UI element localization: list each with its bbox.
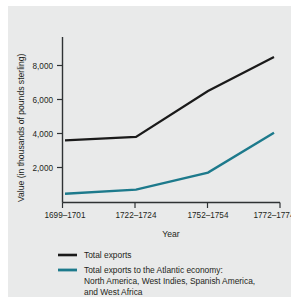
- legend-label-atlantic-line3: and West Africa: [84, 287, 143, 297]
- series-line-total-exports: [65, 57, 274, 140]
- chart-svg: Value (in thousands of pounds sterling) …: [8, 6, 291, 297]
- x-tick-label-1699-1701: 1699–1701: [45, 211, 86, 220]
- y-tick-label-6000: 6,000: [33, 96, 54, 105]
- y-tick-label-8000: 8,000: [33, 62, 54, 71]
- x-tick-label-1772-1774: 1772–1774: [254, 211, 291, 220]
- line-chart-figure: Value (in thousands of pounds sterling) …: [8, 6, 291, 297]
- legend-label-total-exports: Total exports: [84, 250, 131, 260]
- x-tick-label-1752-1754: 1752–1754: [188, 211, 229, 220]
- x-axis-title: Year: [162, 229, 180, 239]
- y-tick-label-4000: 4,000: [33, 130, 54, 139]
- x-axis-ticks: [63, 203, 281, 209]
- y-axis-title: Value (in thousands of pounds sterling): [16, 53, 26, 202]
- x-tick-label-1722-1724: 1722–1724: [116, 211, 157, 220]
- y-axis-ticks: [57, 66, 63, 168]
- x-axis-tick-labels: 1699–1701 1722–1724 1752–1754 1772–1774: [45, 211, 291, 220]
- chart-panel: Value (in thousands of pounds sterling) …: [8, 6, 291, 297]
- legend-label-atlantic-line1: Total exports to the Atlantic economy:: [84, 265, 223, 275]
- y-tick-label-2000: 2,000: [33, 164, 54, 173]
- y-axis-tick-labels: 8,000 6,000 4,000 2,000: [33, 62, 54, 173]
- chart-legend: Total exports Total exports to the Atlan…: [58, 250, 255, 297]
- legend-label-atlantic-line2: North America, West Indies, Spanish Amer…: [84, 276, 255, 286]
- y-axis-title-text: Value (in thousands of pounds sterling): [16, 53, 26, 202]
- series-line-atlantic-economy: [65, 133, 274, 194]
